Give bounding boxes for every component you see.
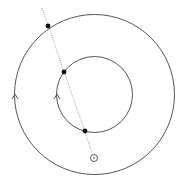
concentric-circles-diagram bbox=[0, 0, 184, 187]
inner-intersection-upper-point bbox=[62, 70, 67, 75]
origin-point bbox=[91, 155, 98, 162]
inner-intersection-lower-point bbox=[83, 129, 88, 134]
inner-circle bbox=[57, 57, 133, 133]
outer-circle bbox=[15, 15, 175, 175]
intersection-points bbox=[46, 24, 88, 134]
secant-line bbox=[42, 8, 94, 158]
outer-intersection-point bbox=[46, 24, 51, 29]
